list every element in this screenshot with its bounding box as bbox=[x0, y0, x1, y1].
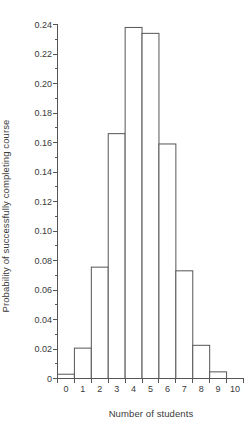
histogram-bar bbox=[193, 345, 210, 378]
histogram-bar bbox=[125, 27, 142, 378]
histogram-bar bbox=[91, 267, 108, 378]
histogram-bar bbox=[210, 372, 227, 379]
histogram-bar bbox=[108, 134, 125, 379]
histogram-bar bbox=[74, 348, 91, 378]
histogram-bar bbox=[176, 271, 193, 379]
histogram-figure: Probability of successfully completing c… bbox=[0, 0, 251, 432]
histogram-bar bbox=[159, 144, 176, 379]
histogram-bar bbox=[58, 374, 75, 378]
plot-area bbox=[0, 0, 251, 432]
histogram-bar bbox=[142, 33, 159, 378]
